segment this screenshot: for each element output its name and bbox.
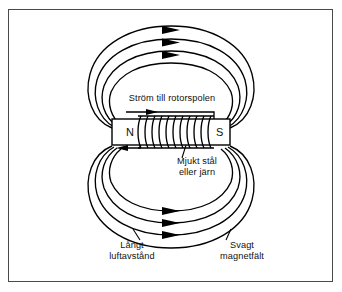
- field-line-upper-3: [102, 51, 240, 126]
- pole-label-south: S: [216, 126, 223, 138]
- field-arrow-lower-2: [162, 219, 180, 227]
- figure-canvas: N S Ström till rotorspolen Mjukt stål el…: [0, 0, 342, 292]
- label-field-strength: Svagt magnetfält: [192, 240, 292, 261]
- field-arrow-upper-3: [162, 51, 180, 59]
- field-arrow-lower-3: [162, 231, 180, 239]
- field-line-upper-2: [95, 39, 246, 127]
- label-air-gap: Långt luftavstånd: [82, 240, 182, 261]
- field-arrows-upper: [162, 26, 180, 59]
- current-return-arrow: [116, 145, 128, 151]
- label-core-material: Mjukt stål eller järn: [152, 156, 242, 177]
- pole-label-north: N: [126, 126, 134, 138]
- label-current: Ström till rotorspolen: [104, 93, 240, 104]
- field-arrow-lower-1: [162, 207, 180, 215]
- current-direction-arrow: [146, 109, 158, 115]
- field-arrow-upper-1: [162, 26, 180, 34]
- leader-line-field-strength: [226, 229, 231, 240]
